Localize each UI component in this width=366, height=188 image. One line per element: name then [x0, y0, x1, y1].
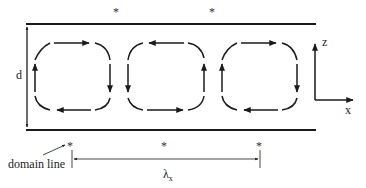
top-marker-star: *	[113, 5, 119, 19]
coordinate-axes: z x	[315, 35, 353, 117]
bottom-marker-star: *	[256, 139, 262, 153]
domain-line-label: domain line	[8, 157, 65, 171]
axis-x-label: x	[345, 103, 351, 117]
depth-dimension: d	[16, 27, 27, 127]
depth-label: d	[16, 68, 22, 82]
top-marker-star: *	[209, 5, 215, 19]
wavelength-dimension: λx	[72, 150, 260, 183]
convection-cell-3	[222, 43, 297, 110]
convection-cells-diagram: * * d	[0, 0, 366, 188]
bottom-marker-star: *	[161, 139, 167, 153]
convection-cell-1	[35, 43, 110, 110]
domain-line-annotation: domain line	[8, 145, 65, 171]
axis-z-label: z	[322, 35, 327, 49]
wavelength-label: λx	[163, 167, 173, 183]
convection-cell-2	[128, 43, 204, 110]
